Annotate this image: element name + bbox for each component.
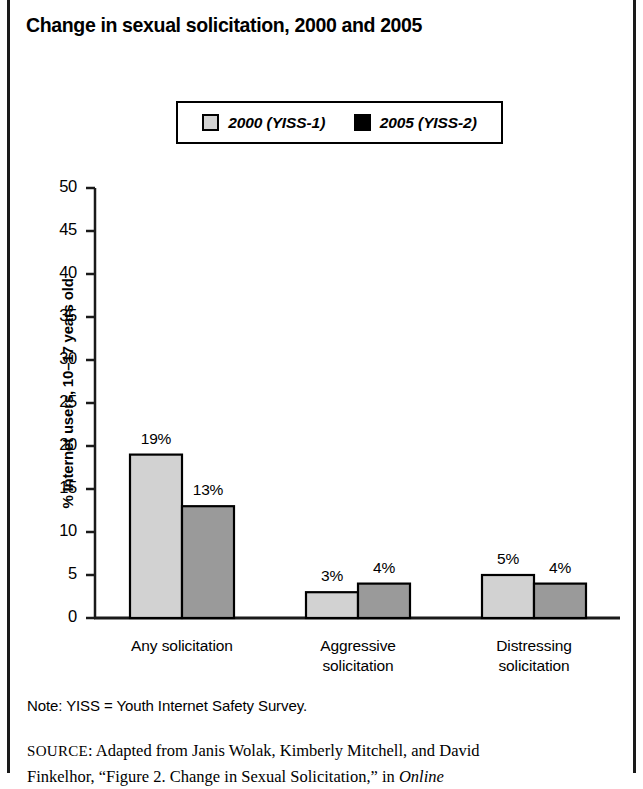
- bar-0-0: [130, 455, 182, 618]
- y-axis-tick-label: 25: [37, 392, 77, 411]
- source-text-line1: Adapted from Janis Wolak, Kimberly Mitch…: [96, 741, 480, 760]
- legend-swatch-2005: [354, 114, 371, 131]
- legend-item-2005: 2005 (YISS-2): [354, 114, 477, 132]
- x-axis-category-label: Any solicitation: [97, 636, 267, 656]
- bar-1-0: [182, 506, 234, 618]
- y-axis-tick-label: 5: [37, 564, 77, 583]
- bar-1-1: [358, 584, 410, 618]
- bar-value-label: 4%: [532, 559, 588, 577]
- y-axis-tick-label: 30: [37, 349, 77, 368]
- page-rule-right: [633, 0, 636, 773]
- legend-label-2000: 2000 (YISS-1): [228, 114, 325, 132]
- legend-swatch-2000: [202, 114, 219, 131]
- source-text-italic: Online: [399, 767, 444, 786]
- category-label-line: Aggressive: [273, 636, 443, 656]
- category-label-line: Distressing: [449, 636, 619, 656]
- bar-value-label: 13%: [180, 481, 236, 499]
- bar-value-label: 5%: [480, 550, 536, 568]
- legend-label-2005: 2005 (YISS-2): [380, 114, 477, 132]
- y-axis-tick-label: 50: [37, 177, 77, 196]
- category-label-line: solicitation: [273, 656, 443, 676]
- chart-legend: 2000 (YISS-1) 2005 (YISS-2): [176, 101, 503, 144]
- bar-value-label: 3%: [304, 567, 360, 585]
- category-label-line: Any solicitation: [97, 636, 267, 656]
- y-axis-tick-label: 45: [37, 220, 77, 239]
- page-rule-left: [7, 0, 10, 773]
- bar-value-label: 19%: [128, 430, 184, 448]
- source-label: SOURCE: [27, 743, 88, 759]
- source-separator: :: [88, 741, 96, 760]
- figure-note: Note: YISS = Youth Internet Safety Surve…: [27, 697, 307, 714]
- y-axis-tick-label: 20: [37, 435, 77, 454]
- bar-0-1: [306, 592, 358, 618]
- figure-source: SOURCE: Adapted from Janis Wolak, Kimber…: [27, 738, 622, 789]
- x-axis-category-label: Distressingsolicitation: [449, 636, 619, 676]
- x-axis-category-label: Aggressivesolicitation: [273, 636, 443, 676]
- source-text-line2: Finkelhor, “Figure 2. Change in Sexual S…: [27, 767, 399, 786]
- y-axis-tick-label: 15: [37, 478, 77, 497]
- y-axis-tick-label: 40: [37, 263, 77, 282]
- y-axis-tick-label: 35: [37, 306, 77, 325]
- y-axis-tick-label: 10: [37, 521, 77, 540]
- bar-0-2: [482, 575, 534, 618]
- bar-value-label: 4%: [356, 559, 412, 577]
- legend-item-2000: 2000 (YISS-1): [202, 114, 325, 132]
- y-axis-tick-label: 0: [37, 607, 77, 626]
- category-label-line: solicitation: [449, 656, 619, 676]
- bar-1-2: [534, 584, 586, 618]
- figure-title: Change in sexual solicitation, 2000 and …: [26, 12, 565, 38]
